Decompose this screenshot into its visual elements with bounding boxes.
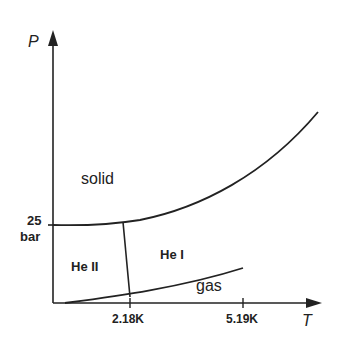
x-axis-label: T <box>302 313 312 329</box>
y-tick-unit: bar <box>20 230 40 243</box>
region-he2: He II <box>71 260 98 273</box>
region-he1: He I <box>160 248 184 261</box>
y-tick-value: 25 <box>27 214 41 227</box>
lambda-line <box>123 222 130 297</box>
x-tick-label-1: 2.18K <box>112 313 144 325</box>
x-tick-label-2: 5.19K <box>226 313 258 325</box>
phase-diagram <box>0 0 347 347</box>
y-axis-label: P <box>28 34 39 50</box>
region-solid: solid <box>81 171 114 187</box>
x-axis-arrow-icon <box>306 298 322 308</box>
region-gas: gas <box>196 278 222 294</box>
y-axis-arrow-icon <box>48 30 58 46</box>
melting-curve <box>53 112 318 225</box>
